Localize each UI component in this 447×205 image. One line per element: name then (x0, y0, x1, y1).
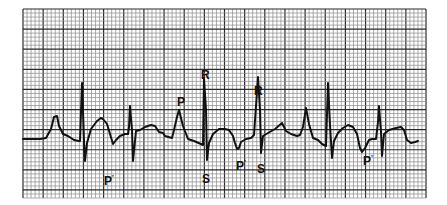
label-text: P (177, 95, 185, 109)
label-text: S (202, 172, 210, 186)
label-r-1: R (201, 69, 210, 81)
label-text: R (254, 84, 263, 98)
label-text: S (257, 162, 265, 176)
prime-mark: ' (112, 173, 114, 182)
label-p-prime-2: P' (236, 160, 246, 172)
label-text: P (104, 174, 112, 188)
prime-mark: ' (371, 153, 373, 162)
label-p-prime-1: P' (104, 175, 114, 187)
label-text: R (201, 68, 210, 82)
label-s-1: S (202, 173, 210, 185)
label-r-2: R (254, 85, 263, 97)
label-text: P (236, 159, 244, 173)
prime-mark: ' (244, 158, 246, 167)
label-s-2: S (257, 163, 265, 175)
ecg-strip (0, 0, 447, 205)
label-text: P (363, 154, 371, 168)
label-p-1: P (177, 96, 185, 108)
label-p-prime-3: P' (363, 155, 373, 167)
